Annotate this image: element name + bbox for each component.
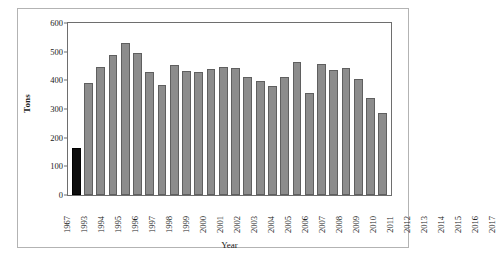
bar-slot [242,23,254,195]
bar-1994 [96,67,105,195]
bar-1993 [84,83,93,195]
bar-slot [180,23,192,195]
x-axis-ticks: 1967199319941995199619971998199920002001… [67,197,392,239]
bar-slot [205,23,217,195]
bar-2012 [317,64,326,195]
bar-2011 [305,93,314,195]
bar-2002 [194,72,203,195]
bar-1998 [145,72,154,195]
bar-slot [193,23,205,195]
bar-2010 [293,62,302,195]
bar-2001 [182,71,191,195]
x-axis-title: Year [67,240,392,250]
bar-1997 [133,53,142,195]
bar-2008 [268,86,277,196]
bar-1967 [72,148,81,195]
bar-series [68,23,391,195]
bar-slot [254,23,266,195]
bar-slot [315,23,327,195]
bar-slot [340,23,352,195]
bar-1999 [158,85,167,195]
bar-slot [328,23,340,195]
bar-2014 [342,68,351,195]
x-tick-slot: 2017 [494,197,500,239]
bar-2013 [329,70,338,195]
bar-2017 [378,113,387,195]
bar-slot [168,23,180,195]
bar-2006 [243,77,252,195]
bar-slot [352,23,364,195]
y-axis-title: Tons [22,94,32,113]
bar-slot [291,23,303,195]
bar-slot [217,23,229,195]
bar-2009 [280,77,289,195]
bar-slot [266,23,278,195]
bar-slot [303,23,315,195]
bar-2004 [219,67,228,195]
x-tick-label: 2017 [488,216,500,233]
bar-slot [156,23,168,195]
bar-2000 [170,65,179,195]
bar-slot [279,23,291,195]
bar-slot [95,23,107,195]
bar-2007 [256,81,265,195]
bar-slot [131,23,143,195]
bar-2015 [354,79,363,195]
bar-slot [364,23,376,195]
bar-slot [229,23,241,195]
bar-slot [107,23,119,195]
bar-2005 [231,68,240,195]
bar-1996 [121,43,130,196]
bar-slot [70,23,82,195]
bar-slot [377,23,389,195]
bar-2003 [207,69,216,195]
bar-2016 [366,98,375,195]
bar-1995 [109,55,118,195]
plot-area: 0100200300400500600 [67,22,392,196]
bar-slot [119,23,131,195]
bar-slot [144,23,156,195]
bar-slot [82,23,94,195]
